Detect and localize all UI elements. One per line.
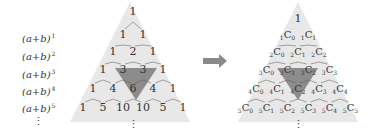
pascal-number: 1 <box>180 101 187 114</box>
binomial-label: (a+b)2 <box>22 50 56 62</box>
binomial-label: (a+b)5 <box>22 102 56 114</box>
pascal-number: 1 <box>110 45 117 58</box>
pascal-number: 1 <box>80 101 87 114</box>
arrow-right-icon <box>203 54 227 68</box>
pascal-number: 1 <box>140 28 147 41</box>
pascal-number: 5 <box>100 101 107 114</box>
pascal-number: 10 <box>136 101 150 114</box>
pascal-number: 1 <box>90 82 97 95</box>
pascal-number: 2 <box>130 45 137 58</box>
pascal-number: 4 <box>150 82 157 95</box>
triangle-ellipsis: ⋮ <box>293 118 304 131</box>
pascal-number: 3 <box>120 63 127 76</box>
triangle-ellipsis: ⋮ <box>128 118 139 131</box>
pascal-number: 1 <box>120 28 127 41</box>
combination-top: 1 <box>295 12 302 25</box>
labels-ellipsis: ⋮ <box>33 115 44 128</box>
binomial-label: (a+b)4 <box>22 85 56 97</box>
pascal-diagram: 11112113311464115101051 (a+b)1(a+b)2(a+b… <box>0 0 372 133</box>
pascal-number: 5 <box>160 101 167 114</box>
pascal-number: 3 <box>140 63 147 76</box>
pascal-number: 1 <box>160 63 167 76</box>
binomial-label: (a+b)1 <box>22 32 55 44</box>
pascal-triangle-background <box>70 2 190 122</box>
binomial-label: (a+b)3 <box>22 68 56 80</box>
pascal-number: 1 <box>130 5 137 18</box>
binomial-labels: (a+b)1(a+b)2(a+b)3(a+b)4(a+b)5 <box>22 32 56 114</box>
pascal-number: 4 <box>110 82 117 95</box>
pascal-number: 1 <box>100 63 107 76</box>
pascal-number: 6 <box>130 82 137 95</box>
pascal-number: 10 <box>116 101 130 114</box>
pascal-number: 1 <box>170 82 177 95</box>
pascal-number: 1 <box>150 45 157 58</box>
